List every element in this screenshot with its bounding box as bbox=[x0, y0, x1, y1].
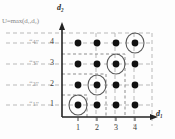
u-bin-label-3: “3” bbox=[26, 60, 42, 67]
u-bin-label-4: “4” bbox=[26, 39, 42, 46]
data-point bbox=[113, 82, 120, 89]
x-tick-label-3: 3 bbox=[111, 124, 121, 132]
y-axis-arrowhead bbox=[59, 22, 65, 30]
data-point bbox=[113, 102, 120, 109]
x-tick-label-2: 2 bbox=[92, 124, 102, 132]
data-point bbox=[94, 102, 101, 109]
y-tick-label-4: 4 bbox=[47, 38, 57, 46]
x-tick-label-1: 1 bbox=[73, 124, 83, 132]
y-tick-label-1: 1 bbox=[47, 100, 57, 108]
data-point bbox=[94, 61, 101, 68]
data-point bbox=[94, 40, 101, 47]
data-point bbox=[94, 82, 101, 89]
data-point bbox=[132, 102, 139, 109]
data-point bbox=[75, 82, 82, 89]
data-point bbox=[113, 61, 120, 68]
data-point bbox=[75, 102, 82, 109]
formula-label: U=max(d₁,d₂) bbox=[2, 18, 39, 25]
data-point bbox=[75, 40, 82, 47]
data-point bbox=[132, 82, 139, 89]
u-bin-label-2: “2” bbox=[26, 81, 42, 88]
data-point bbox=[75, 61, 82, 68]
y-tick-label-2: 2 bbox=[47, 80, 57, 88]
x-axis-label: d₁ bbox=[156, 110, 163, 118]
data-point bbox=[132, 40, 139, 47]
y-tick-label-3: 3 bbox=[47, 59, 57, 67]
u-bin-label-1: “1” bbox=[26, 101, 42, 108]
y-axis-label: d₂ bbox=[57, 4, 64, 12]
max-function-lattice-figure: U=max(d₁,d₂) d₂ d₁ 1 2 3 4 “1” “2” “3” “… bbox=[0, 0, 175, 139]
data-point bbox=[132, 61, 139, 68]
x-tick-label-4: 4 bbox=[130, 124, 140, 132]
data-point bbox=[113, 40, 120, 47]
